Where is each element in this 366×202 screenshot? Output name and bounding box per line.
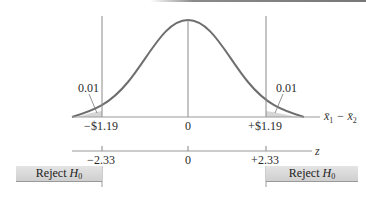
reject-region-right: Reject H0: [266, 166, 358, 182]
x-tick-left: −$1.19: [84, 120, 118, 132]
reject-region-left: Reject H0: [16, 166, 102, 182]
z-tick-center: 0: [185, 154, 191, 166]
tail-label-left: 0.01: [78, 82, 99, 94]
x-tick-center: 0: [185, 120, 191, 132]
z-tick-right: +2.33: [251, 154, 279, 166]
tail-label-right: 0.01: [276, 82, 297, 94]
z-tick-left: −2.33: [87, 154, 115, 166]
x-tick-right: +$1.19: [248, 120, 282, 132]
xbar-axis-label: x̄1 − x̄2: [324, 109, 357, 125]
z-axis-label: z: [315, 144, 320, 159]
